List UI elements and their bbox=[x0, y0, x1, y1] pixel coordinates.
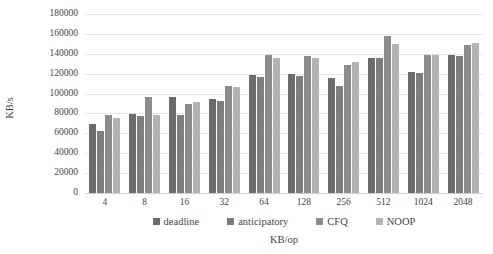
bar-noop-8 bbox=[153, 115, 160, 193]
y-axis-tick-label: 80000 bbox=[18, 108, 78, 117]
x-axis-tick-label: 8 bbox=[125, 197, 165, 207]
bar-deadline-256 bbox=[328, 78, 335, 193]
bar-anticipatory-1024 bbox=[416, 73, 423, 193]
bar-cfq-16 bbox=[185, 104, 192, 193]
bar-group bbox=[324, 14, 364, 193]
bar-noop-64 bbox=[273, 58, 280, 193]
bar-noop-512 bbox=[392, 44, 399, 193]
bar-anticipatory-128 bbox=[296, 76, 303, 193]
bar-deadline-512 bbox=[368, 58, 375, 193]
bar-deadline-2048 bbox=[448, 55, 455, 193]
y-axis-title-label: KB/s bbox=[4, 97, 15, 119]
bar-anticipatory-256 bbox=[336, 86, 343, 193]
bar-cfq-2048 bbox=[464, 45, 471, 193]
bar-group bbox=[85, 14, 125, 193]
bar-chart: KB/s 02000040000600008000010000012000014… bbox=[0, 0, 493, 254]
bar-anticipatory-64 bbox=[257, 77, 264, 193]
bar-anticipatory-32 bbox=[217, 101, 224, 194]
bar-deadline-4 bbox=[89, 124, 96, 193]
legend-item-deadline[interactable]: deadline bbox=[153, 216, 200, 227]
x-axis-tick-label: 4 bbox=[85, 197, 125, 207]
legend-label: NOOP bbox=[387, 216, 416, 227]
x-axis-tick-label: 256 bbox=[324, 197, 364, 207]
bar-deadline-32 bbox=[209, 99, 216, 194]
bar-deadline-16 bbox=[169, 97, 176, 194]
y-axis-tick-label: 120000 bbox=[18, 69, 78, 78]
bar-noop-2048 bbox=[472, 43, 479, 193]
x-axis-tick-labels: 4816326412825651210242048 bbox=[85, 197, 483, 207]
bar-noop-256 bbox=[352, 62, 359, 193]
legend-item-anticipatory[interactable]: anticipatory bbox=[227, 216, 288, 227]
bar-noop-16 bbox=[193, 102, 200, 193]
bar-cfq-64 bbox=[265, 55, 272, 193]
bar-group bbox=[284, 14, 324, 193]
legend-label: CFQ bbox=[327, 216, 347, 227]
x-axis-tick-label: 1024 bbox=[403, 197, 443, 207]
bar-group bbox=[403, 14, 443, 193]
y-axis-tick-label: 100000 bbox=[18, 89, 78, 98]
y-axis-tick-label: 140000 bbox=[18, 49, 78, 58]
bar-group bbox=[125, 14, 165, 193]
bar-group bbox=[364, 14, 404, 193]
bar-deadline-64 bbox=[249, 75, 256, 193]
bar-deadline-1024 bbox=[408, 72, 415, 193]
legend-label: anticipatory bbox=[238, 216, 288, 227]
x-axis-tick-label: 16 bbox=[165, 197, 205, 207]
y-axis-tick-label: 40000 bbox=[18, 148, 78, 157]
bar-anticipatory-16 bbox=[177, 115, 184, 193]
y-axis-tick-label: 60000 bbox=[18, 128, 78, 137]
bar-group bbox=[204, 14, 244, 193]
bar-deadline-8 bbox=[129, 114, 136, 193]
y-axis-tick-label: 20000 bbox=[18, 168, 78, 177]
bar-deadline-128 bbox=[288, 74, 295, 193]
chart-legend: deadlineanticipatoryCFQNOOP bbox=[85, 216, 483, 227]
bar-cfq-256 bbox=[344, 65, 351, 193]
y-axis-title: KB/s bbox=[2, 20, 16, 195]
legend-swatch-icon bbox=[153, 218, 160, 225]
x-axis-tick-label: 32 bbox=[204, 197, 244, 207]
bar-cfq-4 bbox=[105, 115, 112, 193]
bar-cfq-128 bbox=[304, 56, 311, 193]
bar-groups bbox=[85, 14, 483, 193]
legend-item-noop[interactable]: NOOP bbox=[376, 216, 416, 227]
y-axis-tick-label: 180000 bbox=[18, 9, 78, 18]
legend-swatch-icon bbox=[227, 218, 234, 225]
bar-anticipatory-8 bbox=[137, 116, 144, 193]
bar-anticipatory-512 bbox=[376, 58, 383, 193]
x-axis-tick-label: 128 bbox=[284, 197, 324, 207]
legend-item-cfq[interactable]: CFQ bbox=[316, 216, 347, 227]
bar-noop-1024 bbox=[432, 55, 439, 193]
y-axis-tick-label: 160000 bbox=[18, 29, 78, 38]
y-axis-tick-label: 0 bbox=[18, 188, 78, 197]
legend-swatch-icon bbox=[376, 218, 383, 225]
bar-cfq-8 bbox=[145, 97, 152, 194]
bar-cfq-1024 bbox=[424, 55, 431, 193]
bar-group bbox=[244, 14, 284, 193]
x-axis-tick-label: 64 bbox=[244, 197, 284, 207]
bar-group bbox=[443, 14, 483, 193]
bar-cfq-512 bbox=[384, 36, 391, 193]
bar-anticipatory-2048 bbox=[456, 56, 463, 193]
bar-group bbox=[165, 14, 205, 193]
plot-area bbox=[85, 14, 483, 193]
bar-noop-128 bbox=[312, 58, 319, 193]
x-axis-title: KB/op bbox=[85, 234, 483, 245]
bar-cfq-32 bbox=[225, 86, 232, 193]
bar-noop-4 bbox=[113, 118, 120, 193]
x-axis-tick-label: 2048 bbox=[443, 197, 483, 207]
bar-anticipatory-4 bbox=[97, 131, 104, 193]
legend-swatch-icon bbox=[316, 218, 323, 225]
x-axis-tick-label: 512 bbox=[364, 197, 404, 207]
gridline bbox=[85, 193, 483, 194]
legend-label: deadline bbox=[164, 216, 200, 227]
bar-noop-32 bbox=[233, 87, 240, 193]
